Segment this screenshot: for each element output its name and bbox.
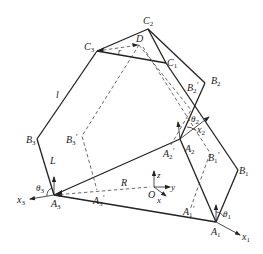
moving-platform — [97, 29, 166, 63]
label-x2: x2 — [196, 124, 205, 137]
label-o: O — [148, 189, 155, 200]
actuator-axes — [30, 117, 240, 235]
label-b2-prime: B2′ — [187, 81, 199, 95]
label-a3-prime: A3′ — [92, 194, 105, 208]
link-c2-b2 — [148, 29, 205, 83]
label-y: y — [170, 182, 175, 192]
label-d: D — [135, 33, 144, 44]
label-b1-prime: B1′ — [208, 151, 220, 165]
label-b3-prime: B3′ — [66, 133, 78, 147]
label-L: L — [49, 155, 56, 166]
theta3-arc — [47, 188, 52, 196]
label-a1-prime: A1′ — [182, 205, 195, 219]
platform-triangle — [97, 29, 166, 63]
label-theta1: θ1 — [223, 209, 231, 221]
label-x1: x1 — [241, 231, 250, 244]
label-c1: C1 — [167, 57, 178, 70]
label-a1: A1 — [210, 226, 221, 239]
label-a3: A3 — [50, 198, 61, 211]
label-b1: B1 — [239, 165, 249, 178]
label-x: x — [156, 195, 161, 205]
label-x3: x3 — [16, 194, 25, 207]
a3-arrow-icon — [54, 190, 62, 197]
link-c3-b3 — [37, 51, 97, 139]
label-a2: A2 — [184, 143, 195, 156]
labels: C2 C3 D r C1 B2 B2′ l B3 B3′ θ2 x2 A2 A2… — [16, 15, 250, 244]
label-b2: B2 — [211, 75, 221, 88]
label-c2: C2 — [143, 15, 154, 28]
label-theta3: θ3 — [36, 183, 44, 195]
delta-robot-diagram: C2 C3 D r C1 B2 B2′ l B3 B3′ θ2 x2 A2 A2… — [0, 0, 263, 254]
label-b3: B3 — [26, 134, 36, 147]
dash-d-b3p-a3p — [82, 45, 139, 190]
label-a2-prime: A2′ — [162, 147, 175, 161]
label-l: l — [56, 89, 59, 100]
label-z: z — [156, 170, 161, 180]
z-arrow-a2 — [178, 122, 180, 139]
label-R: R — [120, 177, 127, 188]
link-c1-b1 — [166, 63, 238, 170]
label-c3: C3 — [84, 41, 95, 54]
